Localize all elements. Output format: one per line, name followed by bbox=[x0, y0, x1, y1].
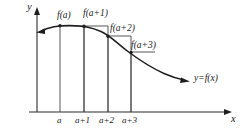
point-fa3 bbox=[129, 51, 132, 54]
curve-right-arrow-icon bbox=[180, 78, 190, 84]
xtick-a-plus-2: a+2 bbox=[99, 116, 114, 125]
x-axis-label: x bbox=[231, 114, 236, 125]
label-f-a: f(a) bbox=[57, 11, 71, 21]
xtick-a-plus-1: a+1 bbox=[75, 116, 90, 125]
function-curve bbox=[41, 26, 184, 80]
rectangle-a3 bbox=[131, 52, 155, 112]
point-fa2 bbox=[106, 35, 109, 38]
label-f-a-plus-2: f(a+2) bbox=[110, 24, 135, 34]
label-curve-equation: y=f(x) bbox=[194, 74, 218, 84]
function-step-diagram: y x f(a) f(a+1) f(a+2) f(a+3) y=f(x) a a… bbox=[0, 0, 245, 135]
step-rectangles bbox=[60, 26, 155, 112]
point-fa bbox=[58, 24, 61, 27]
rectangle-a2 bbox=[108, 36, 131, 112]
point-fa1 bbox=[82, 25, 85, 28]
xtick-a-plus-3: a+3 bbox=[122, 116, 137, 125]
y-axis-arrow-icon bbox=[34, 7, 40, 15]
rectangle-a bbox=[60, 26, 84, 112]
label-f-a-plus-3: f(a+3) bbox=[131, 41, 156, 51]
y-axis-label: y bbox=[27, 2, 32, 13]
xtick-a: a bbox=[57, 116, 62, 125]
label-f-a-plus-1: f(a+1) bbox=[83, 9, 108, 19]
rectangle-a1 bbox=[84, 26, 108, 112]
